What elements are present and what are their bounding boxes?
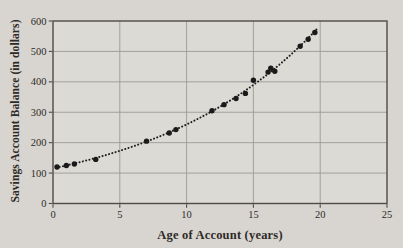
data-point (144, 138, 149, 143)
data-point (167, 130, 172, 135)
chart-svg: 05101520250100200300400500600 (0, 0, 403, 248)
data-point (64, 163, 69, 168)
svg-text:25: 25 (382, 209, 393, 220)
svg-text:10: 10 (181, 209, 192, 220)
data-point (93, 157, 98, 162)
svg-text:5: 5 (117, 209, 122, 220)
svg-text:200: 200 (31, 137, 47, 148)
data-point (251, 78, 256, 83)
svg-text:600: 600 (31, 16, 47, 27)
data-point (305, 37, 310, 42)
svg-text:15: 15 (248, 209, 259, 220)
data-point (173, 127, 178, 132)
data-point (272, 68, 277, 73)
svg-text:0: 0 (41, 198, 46, 209)
data-point (221, 102, 226, 107)
svg-text:20: 20 (315, 209, 326, 220)
svg-text:100: 100 (31, 168, 47, 179)
svg-text:0: 0 (50, 209, 55, 220)
svg-text:300: 300 (31, 107, 47, 118)
svg-text:400: 400 (31, 76, 47, 87)
x-axis-title: Age of Account (years) (53, 228, 387, 243)
savings-balance-chart: 05101520250100200300400500600 Savings Ac… (0, 0, 403, 248)
data-point (233, 96, 238, 101)
y-axis-title: Savings Account Balance (in dollars) (9, 11, 21, 211)
data-point (54, 164, 59, 169)
data-point (312, 30, 317, 35)
svg-text:500: 500 (31, 46, 47, 57)
data-point (243, 91, 248, 96)
data-point (209, 108, 214, 113)
data-point (297, 44, 302, 49)
data-point (72, 161, 77, 166)
